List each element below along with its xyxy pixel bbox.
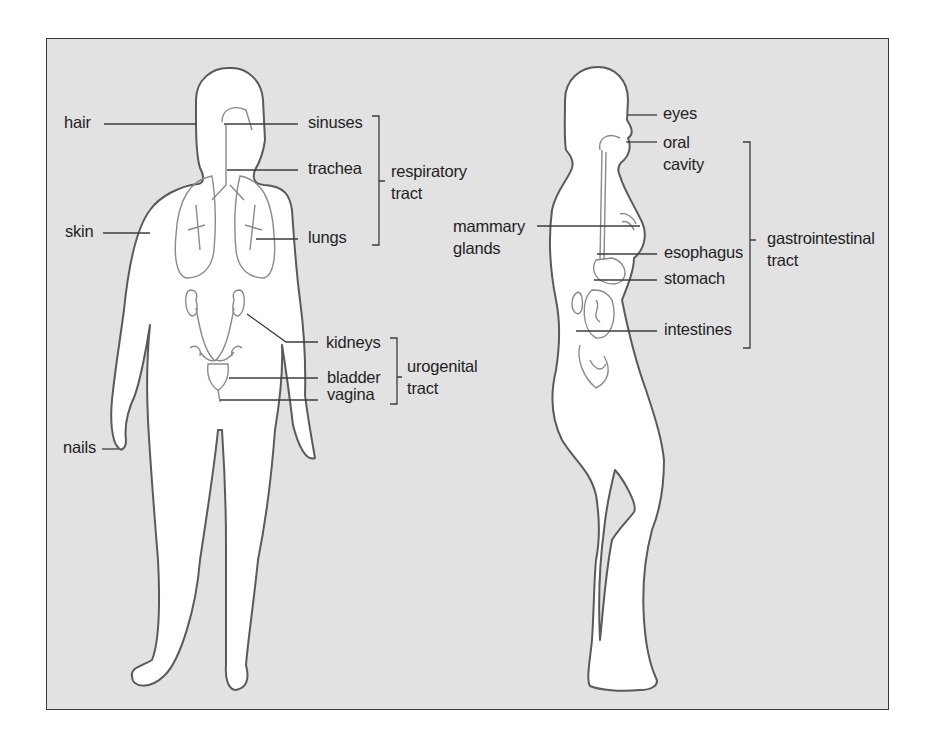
label-nails: nails bbox=[63, 438, 96, 457]
label-kidneys: kidneys bbox=[326, 333, 381, 352]
label-trachea: trachea bbox=[308, 159, 362, 178]
side-body-silhouette bbox=[550, 67, 664, 691]
label-vagina: vagina bbox=[327, 385, 374, 404]
front-body-silhouette bbox=[111, 68, 315, 690]
label-eyes: eyes bbox=[663, 104, 697, 123]
label-sinuses: sinuses bbox=[308, 113, 363, 132]
label-lungs: lungs bbox=[308, 228, 346, 247]
label-oral-cavity: oral cavity bbox=[663, 131, 704, 175]
label-hair: hair bbox=[64, 113, 91, 132]
label-intestines: intestines bbox=[664, 320, 732, 339]
label-mammary-glands: mammary glands bbox=[453, 215, 525, 259]
label-esophagus: esophagus bbox=[664, 243, 743, 262]
group-gastrointestinal-tract: gastrointestinal tract bbox=[767, 227, 875, 271]
group-respiratory-tract: respiratory tract bbox=[391, 160, 467, 204]
label-skin: skin bbox=[65, 222, 94, 241]
group-urogenital-tract: urogenital tract bbox=[407, 355, 477, 399]
label-stomach: stomach bbox=[664, 269, 725, 288]
